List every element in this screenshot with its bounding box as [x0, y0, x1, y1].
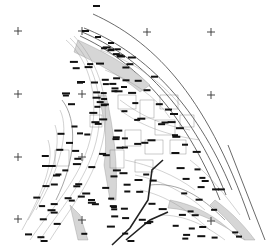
map-label — [65, 197, 72, 199]
map-label — [66, 142, 73, 144]
map-label — [51, 184, 58, 186]
parcel-lines — [55, 95, 194, 172]
map-label — [96, 63, 104, 65]
map-label — [193, 151, 201, 153]
map-label — [236, 236, 242, 238]
map-label — [170, 113, 178, 115]
map-label — [111, 208, 117, 210]
map-label — [168, 121, 176, 123]
map-label — [128, 92, 136, 94]
map-label — [89, 112, 97, 114]
map-label — [73, 185, 80, 187]
map-label — [58, 133, 65, 135]
map-label — [211, 209, 217, 211]
map-label — [189, 228, 195, 230]
map-label — [101, 104, 109, 106]
map-label — [212, 188, 219, 190]
map-label — [196, 199, 203, 201]
map-label — [81, 233, 87, 235]
map-label — [141, 142, 148, 144]
map-label — [95, 123, 102, 125]
map-label — [113, 136, 120, 138]
map-label — [93, 97, 101, 99]
map-label — [172, 134, 178, 136]
map-label — [147, 221, 153, 223]
map-label — [48, 209, 56, 211]
map-label — [159, 208, 167, 210]
map-label — [93, 5, 100, 7]
map-label — [113, 169, 121, 171]
map-label — [63, 95, 69, 97]
map-label — [88, 166, 95, 168]
map-label — [70, 61, 78, 63]
map-label — [134, 143, 141, 145]
map-label — [85, 66, 93, 68]
map-label — [93, 91, 100, 93]
map-label — [99, 118, 107, 120]
survey-map — [0, 0, 275, 249]
map-label — [75, 183, 82, 185]
map-label — [84, 134, 90, 136]
map-label — [107, 226, 115, 228]
map-label — [72, 126, 78, 128]
annotation-labels — [25, 5, 242, 242]
map-label — [88, 199, 95, 201]
map-label — [116, 54, 123, 56]
map-label — [111, 90, 117, 92]
grid-cross — [78, 90, 86, 98]
map-label — [111, 215, 118, 217]
map-label — [72, 150, 79, 152]
map-label — [107, 49, 114, 51]
map-label — [127, 240, 134, 242]
map-label — [202, 180, 209, 182]
map-label — [114, 130, 122, 132]
map-label — [120, 172, 128, 174]
map-label — [73, 163, 81, 165]
map-label — [33, 197, 40, 199]
map-label — [115, 48, 121, 50]
map-label — [122, 217, 129, 219]
grid-cross — [14, 90, 22, 98]
map-label — [25, 233, 32, 235]
map-label — [123, 79, 130, 81]
grid-cross — [207, 91, 215, 99]
map-label — [109, 83, 116, 85]
map-label — [135, 179, 143, 181]
map-label — [197, 235, 205, 237]
map-label — [39, 205, 45, 207]
map-label — [198, 186, 205, 188]
map-label — [77, 81, 85, 83]
map-label — [40, 218, 47, 220]
map-label — [121, 208, 128, 210]
map-label — [149, 203, 156, 205]
map-label — [62, 92, 70, 94]
map-label — [122, 137, 128, 139]
map-label — [139, 219, 146, 221]
map-label — [121, 86, 127, 88]
map-label — [122, 233, 128, 235]
map-label — [78, 196, 85, 198]
map-label — [156, 103, 163, 105]
map-label — [181, 192, 187, 194]
map-label — [82, 193, 90, 195]
map-label — [124, 191, 130, 193]
grid-cross — [14, 153, 22, 161]
map-label — [43, 185, 50, 187]
map-label — [135, 80, 142, 82]
map-label — [212, 237, 218, 239]
map-label — [232, 231, 238, 233]
map-label — [97, 101, 104, 103]
map-label — [42, 155, 49, 157]
map-label — [87, 63, 93, 65]
map-label — [124, 184, 131, 186]
map-label — [108, 42, 114, 44]
grid-cross — [207, 28, 215, 36]
map-label — [199, 177, 205, 179]
map-label — [53, 175, 60, 177]
map-label — [179, 214, 186, 216]
map-label — [182, 238, 188, 240]
map-label — [88, 202, 96, 204]
map-label — [37, 236, 44, 238]
map-label — [69, 200, 75, 202]
map-label — [95, 36, 101, 38]
